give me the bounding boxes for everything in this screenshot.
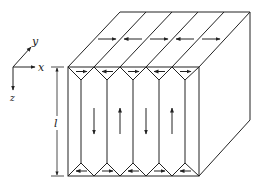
height-label: l: [54, 117, 58, 130]
bottom-closure-domains: [68, 163, 199, 176]
y-axis-arrow: [13, 47, 31, 67]
height-dimension: l: [51, 67, 64, 176]
y-axis-label: y: [31, 35, 39, 48]
domain-walls: [81, 80, 185, 163]
right-face: [199, 12, 250, 176]
closure-domain-diagram: x y z l: [0, 0, 261, 185]
coordinate-axes: x y z: [9, 35, 45, 103]
z-axis-label: z: [9, 93, 15, 103]
x-axis-label: x: [38, 61, 45, 74]
top-closure-domains: [68, 67, 199, 80]
